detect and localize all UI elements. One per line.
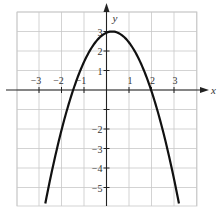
x-tick-label: −2	[53, 75, 64, 86]
y-tick-label: −2	[92, 124, 103, 135]
y-tick-label: −3	[92, 144, 103, 155]
x-tick-label: 2	[150, 75, 155, 86]
parabola-graph: −3−2−1123−5−4−3−2123 x y	[0, 0, 220, 218]
x-tick-label: −3	[31, 75, 42, 86]
y-tick-label: 2	[98, 46, 103, 57]
y-tick-label: −5	[92, 183, 103, 194]
y-tick-label: −4	[92, 163, 103, 174]
x-tick-label: 1	[128, 75, 133, 86]
x-tick-label: 3	[173, 75, 178, 86]
y-tick-label: 1	[98, 66, 103, 77]
y-axis-label: y	[112, 12, 118, 24]
parabola-curve	[45, 32, 179, 204]
y-axis-arrow-icon	[104, 3, 110, 12]
x-axis-arrow-icon	[200, 87, 209, 93]
x-axis-label: x	[210, 84, 216, 96]
